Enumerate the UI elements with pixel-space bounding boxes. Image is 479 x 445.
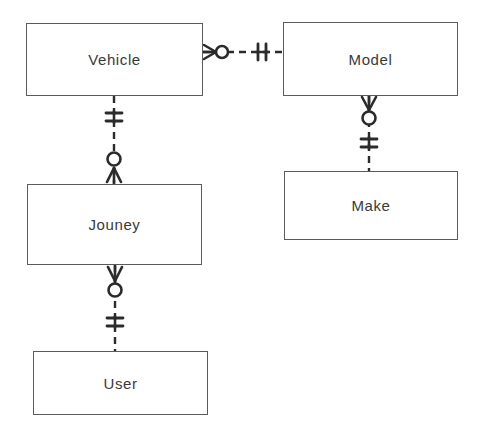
entity-label: Make (351, 197, 390, 214)
entity-vehicle[interactable]: Vehicle (26, 23, 203, 96)
cardinality-zero-circle (363, 112, 376, 125)
relationship-vehicle-jouney[interactable] (106, 96, 122, 184)
relationship-jouney-user[interactable] (107, 265, 123, 351)
cardinality-one-and-only-one-user (107, 316, 123, 328)
entity-label: Jouney (89, 216, 141, 233)
relationship-model-make[interactable] (361, 96, 377, 171)
cardinality-zero-circle (216, 46, 228, 58)
cardinality-zero-or-many-vehicle (203, 45, 228, 59)
relationship-vehicle-model[interactable] (203, 44, 283, 60)
cardinality-one-and-only-one-model (256, 44, 268, 60)
cardinality-one-and-only-one-vehicle (106, 111, 122, 123)
entity-jouney[interactable]: Jouney (27, 184, 202, 265)
cardinality-one-and-only-one-make (361, 137, 377, 149)
entity-model[interactable]: Model (283, 22, 458, 96)
cardinality-zero-or-many-jouney (108, 266, 122, 297)
entity-user[interactable]: User (33, 351, 208, 415)
cardinality-zero-or-many-jouney (107, 153, 121, 184)
entity-label: User (103, 375, 137, 392)
cardinality-zero-or-many-model (362, 96, 376, 125)
cardinality-zero-circle (109, 284, 122, 297)
entity-make[interactable]: Make (284, 171, 458, 240)
erd-canvas: Vehicle Model Jouney Make User (0, 0, 479, 445)
cardinality-zero-circle (108, 153, 121, 166)
entity-label: Vehicle (88, 51, 141, 68)
entity-label: Model (349, 51, 393, 68)
